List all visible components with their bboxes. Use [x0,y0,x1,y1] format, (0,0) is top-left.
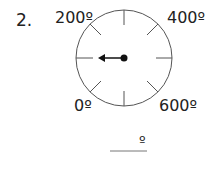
dial-pointer-icon [98,54,128,62]
answer-unit: º [139,133,146,149]
answer-input[interactable] [112,134,142,150]
dial-diagram [0,0,215,170]
